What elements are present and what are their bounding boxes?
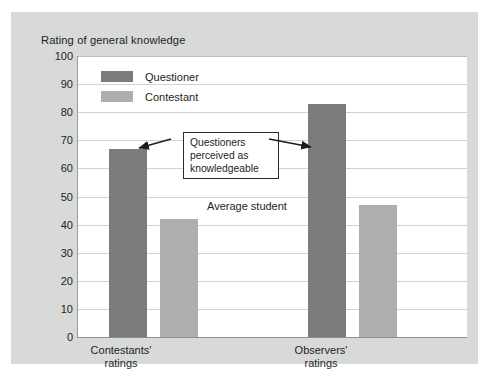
- y-tick-0: 0: [43, 331, 73, 343]
- bar-contestant-contestants-ratings: [160, 219, 198, 337]
- x-axis-label-group-1-line1: Observers': [261, 344, 381, 357]
- x-axis-label-group-0: Contestants' ratings: [61, 344, 181, 370]
- chart-title: Rating of general knowledge: [41, 34, 186, 46]
- y-tick-60: 60: [43, 162, 73, 174]
- bar-questioner-contestants-ratings: [109, 149, 147, 337]
- y-tick-30: 30: [43, 247, 73, 259]
- chart-panel: Rating of general knowledge 100 90 80 70…: [11, 12, 478, 364]
- average-student-label: Average student: [207, 200, 287, 212]
- x-axis-label-group-0-line2: ratings: [61, 357, 181, 370]
- bar-contestant-observers-ratings: [359, 205, 397, 337]
- legend-swatch-contestant: [101, 91, 133, 102]
- legend-item-contestant: Contestant: [101, 88, 241, 105]
- legend-label-contestant: Contestant: [145, 91, 198, 103]
- y-tick-70: 70: [43, 134, 73, 146]
- legend-item-questioner: Questioner: [101, 68, 241, 85]
- y-tick-50: 50: [43, 191, 73, 203]
- bar-questioner-observers-ratings: [308, 104, 346, 337]
- x-axis-label-group-1: Observers' ratings: [261, 344, 381, 370]
- y-tick-100: 100: [43, 50, 73, 62]
- y-tick-80: 80: [43, 106, 73, 118]
- legend-label-questioner: Questioner: [145, 71, 199, 83]
- figure-canvas: Rating of general knowledge 100 90 80 70…: [0, 0, 492, 377]
- y-axis-tick-labels: 100 90 80 70 60 50 40 30 20 10 0: [41, 56, 73, 337]
- y-tick-40: 40: [43, 219, 73, 231]
- gridline-100: [78, 56, 467, 57]
- legend-swatch-questioner: [101, 71, 133, 82]
- y-tick-20: 20: [43, 275, 73, 287]
- annotation-callout-text: Questioners perceived as knowledgeable: [190, 136, 278, 175]
- chart-legend: Questioner Contestant: [101, 68, 241, 108]
- annotation-callout-box: Questioners perceived as knowledgeable: [183, 132, 279, 179]
- gridline-80: [78, 112, 467, 113]
- x-axis-label-group-0-line1: Contestants': [61, 344, 181, 357]
- x-axis-label-group-1-line2: ratings: [261, 357, 381, 370]
- y-tick-90: 90: [43, 78, 73, 90]
- y-tick-10: 10: [43, 303, 73, 315]
